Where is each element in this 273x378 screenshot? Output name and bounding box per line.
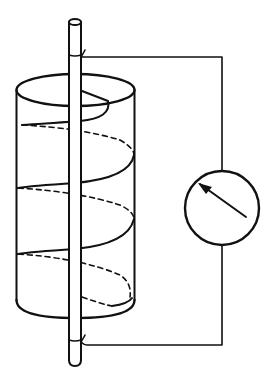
connecting-wire <box>81 50 222 345</box>
meter <box>185 171 259 245</box>
coil-meter-diagram <box>0 0 273 378</box>
central-rod <box>69 18 81 366</box>
meter-needle-arrow-icon <box>198 183 212 194</box>
